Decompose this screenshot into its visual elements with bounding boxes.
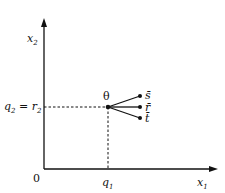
y-axis-arrow-icon <box>41 18 47 27</box>
node-label-theta: θ <box>103 90 110 103</box>
point-r <box>138 105 142 109</box>
diagram-canvas: x2 x1 0 q1 q2 = r2 θ s̄ r̄ t̄ <box>0 0 225 193</box>
x-axis-arrow-icon <box>209 166 218 172</box>
branch-s <box>108 96 140 107</box>
node-point <box>106 105 111 110</box>
origin-label: 0 <box>33 172 40 185</box>
y-axis-label: x2 <box>27 32 38 47</box>
point-s <box>138 94 142 98</box>
x-axis-label: x1 <box>197 176 208 191</box>
x-tick-label: q1 <box>102 176 114 191</box>
branch-t <box>108 107 140 118</box>
point-t <box>138 116 142 120</box>
y-tick-label: q2 = r2 <box>4 100 42 115</box>
